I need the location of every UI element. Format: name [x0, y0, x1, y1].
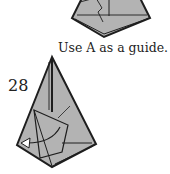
instruction-caption: Use A as a guide.: [58, 40, 168, 55]
step-28-model: [17, 57, 96, 167]
step-number: 28: [8, 76, 28, 95]
top-folded-model: [72, 0, 150, 37]
